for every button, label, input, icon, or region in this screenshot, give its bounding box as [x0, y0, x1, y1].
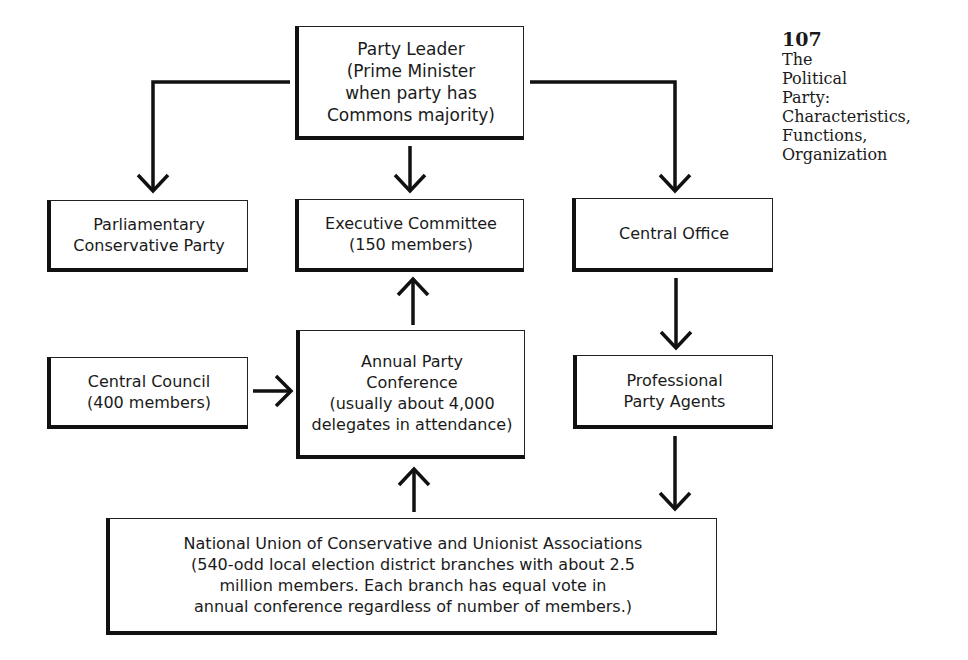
node-executive-committee: Executive Committee (150 members): [295, 199, 524, 272]
node-national-union: National Union of Conservative and Union…: [106, 518, 717, 635]
node-annual-conference: Annual Party Conference (usually about 4…: [296, 330, 525, 459]
edge-leader-parliamentary: [153, 82, 290, 190]
page-header: 107 The Political Party: Characteristics…: [782, 28, 911, 164]
node-parliamentary-party: Parliamentary Conservative Party: [47, 200, 248, 272]
node-party-agents: Professional Party Agents: [573, 355, 773, 429]
node-party-leader: Party Leader (Prime Minister when party …: [295, 26, 524, 140]
node-central-office: Central Office: [572, 198, 773, 272]
node-central-council: Central Council (400 members): [47, 357, 248, 429]
running-title: The Political Party: Characteristics, Fu…: [782, 50, 911, 164]
edge-leader-central-office: [530, 82, 675, 190]
page-number: 107: [782, 28, 911, 50]
